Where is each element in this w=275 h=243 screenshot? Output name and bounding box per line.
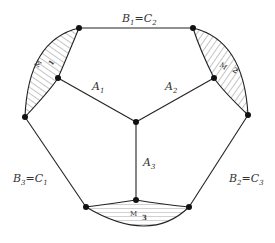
node-top-left bbox=[76, 25, 82, 31]
region-m2 bbox=[193, 28, 248, 115]
region-m1 bbox=[25, 28, 79, 117]
node-inner-right bbox=[211, 75, 217, 81]
label-m3-letter: M bbox=[130, 210, 137, 218]
node-inner-left bbox=[55, 75, 61, 81]
label-m3-number: 3 bbox=[142, 213, 147, 222]
node-bottom-center bbox=[133, 197, 139, 203]
node-bottom-right bbox=[186, 204, 192, 210]
edge-b2-c3 bbox=[189, 115, 248, 207]
edge-a2 bbox=[136, 78, 214, 122]
three-region-diagram: B1=C2 B3=C1 B2=C3 A1 A2 A3 M 1 M 2 M 3 bbox=[0, 0, 275, 243]
edge-b3-c1 bbox=[25, 117, 86, 207]
label-b1-c2: B1=C2 bbox=[121, 12, 157, 27]
label-b2-c3: B2=C3 bbox=[228, 172, 264, 187]
node-bottom-left bbox=[83, 204, 89, 210]
label-a3: A3 bbox=[142, 156, 156, 171]
label-a2: A2 bbox=[164, 80, 178, 95]
node-far-right bbox=[245, 112, 251, 118]
node-top-right bbox=[190, 25, 196, 31]
label-a1: A1 bbox=[91, 80, 104, 95]
region-m3 bbox=[86, 200, 189, 226]
label-b3-c1: B3=C1 bbox=[12, 172, 48, 187]
node-center bbox=[133, 119, 139, 125]
node-far-left bbox=[22, 114, 28, 120]
